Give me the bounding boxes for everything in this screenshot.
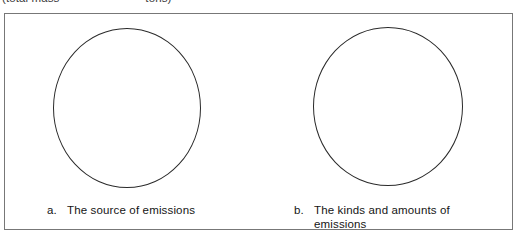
caption-b: b.The kinds and amounts ofemissions [294,203,450,231]
caption-a: a.The source of emissions [47,203,195,217]
header-suffix-text: tons) [145,0,171,4]
header-fill-in-line: (total masstons) [2,0,302,6]
caption-a-marker: a. [47,203,67,217]
caption-b-marker: b. [294,203,314,217]
caption-b-label-line2: emissions [314,217,450,231]
answer-circle-b[interactable] [313,27,463,186]
caption-b-label-line1: The kinds and amounts of [314,204,450,216]
answer-circle-a[interactable] [53,28,201,188]
header-prefix-text: (total mass [2,0,59,4]
document-page: (total masstons) a.The source of emissio… [0,0,525,240]
answer-box: a.The source of emissions b.The kinds an… [4,13,513,230]
caption-a-label: The source of emissions [67,204,195,216]
